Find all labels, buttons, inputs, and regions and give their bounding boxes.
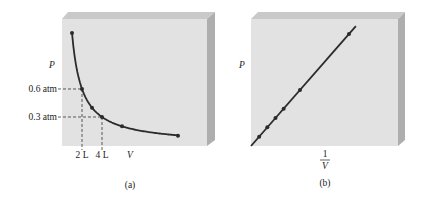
data-point (80, 87, 84, 91)
data-point (176, 134, 180, 138)
data-point (90, 106, 94, 110)
data-point (120, 124, 124, 128)
data-point (282, 107, 286, 111)
panel-b: P 1 V (b) (238, 12, 405, 189)
panel-a-side-bevel (207, 12, 215, 146)
data-point (298, 88, 302, 92)
data-point (265, 125, 269, 129)
data-point (347, 32, 351, 36)
data-point (70, 31, 74, 35)
panel-a-caption: (a) (125, 180, 136, 191)
panel-a: P 0.6 atm 0.3 atm 2 L 4 L V (a) (29, 12, 216, 191)
figure: P 0.6 atm 0.3 atm 2 L 4 L V (a) P 1 V (b… (0, 0, 424, 201)
panel-a-face (62, 19, 207, 146)
panel-a-ylabel: P (48, 60, 55, 70)
panel-a-xtick: 4 L (96, 150, 109, 160)
panel-b-caption: (b) (319, 178, 330, 189)
panel-b-side-bevel (398, 12, 405, 146)
data-point (257, 135, 261, 139)
data-point (274, 116, 278, 120)
panel-a-xlabel: V (127, 150, 134, 160)
panel-a-top-bevel (62, 12, 215, 19)
panel-b-xlabel-numerator: 1 (323, 149, 328, 159)
panel-a-ytick: 0.3 atm (29, 112, 58, 122)
panel-b-face (251, 19, 398, 146)
panel-b-xlabel-denominator: V (322, 161, 329, 171)
panel-a-ytick: 0.6 atm (29, 84, 58, 94)
panel-b-top-bevel (251, 12, 405, 19)
panel-a-xtick: 2 L (76, 150, 89, 160)
panel-b-ylabel: P (238, 60, 245, 70)
data-point (100, 115, 104, 119)
